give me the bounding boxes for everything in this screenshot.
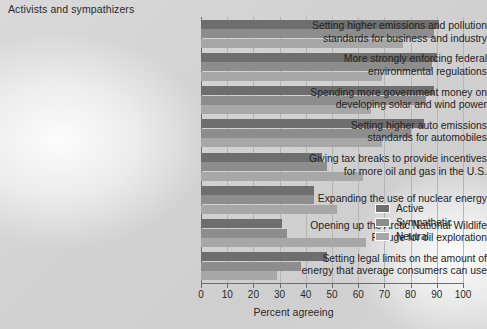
x-tick-label: 100 — [455, 289, 472, 300]
x-tick — [306, 283, 307, 288]
bar-sympathetic — [201, 262, 301, 271]
x-tick — [280, 283, 281, 288]
category-label: Giving tax breaks to provide incentivesf… — [291, 153, 487, 178]
category-label-line: Setting higher emissions and pollution — [291, 20, 487, 32]
x-tick — [463, 283, 464, 288]
bar-active — [201, 219, 282, 228]
x-tick — [227, 283, 228, 288]
legend-label: Neutral — [396, 231, 429, 242]
x-tick — [384, 283, 385, 288]
x-tick-label: 40 — [300, 289, 311, 300]
category-label: Setting higher auto emissionsstandards f… — [291, 120, 487, 145]
x-tick-label: 70 — [379, 289, 390, 300]
x-tick — [358, 283, 359, 288]
category-label-line: standards for automobiles — [291, 132, 487, 144]
x-tick-label: 50 — [326, 289, 337, 300]
x-tick — [332, 283, 333, 288]
bar-sympathetic — [201, 229, 287, 238]
x-axis-label: Percent agreeing — [154, 306, 334, 318]
x-tick-label: 60 — [353, 289, 364, 300]
legend-item[interactable]: Sympathetic — [375, 216, 452, 229]
legend-swatch-icon — [375, 232, 390, 241]
category-label: More strongly enforcing federalenvironme… — [291, 53, 487, 78]
category-label-line: energy that average consumers can use — [291, 265, 487, 277]
category-label: Spending more government money ondevelop… — [291, 87, 487, 112]
chart-legend: ActiveSympatheticNeutral — [375, 202, 452, 244]
legend-item[interactable]: Neutral — [375, 230, 452, 243]
bar-neutral — [201, 271, 277, 280]
x-tick-label: 20 — [248, 289, 259, 300]
x-tick-label: 80 — [405, 289, 416, 300]
legend-label: Sympathetic — [396, 217, 452, 228]
category-label: Setting higher emissions and pollutionst… — [291, 20, 487, 45]
category-label-line: for more oil and gas in the U.S. — [291, 166, 487, 178]
category-label-line: Setting higher auto emissions — [291, 120, 487, 132]
category-label: Setting legal limits on the amount ofene… — [291, 253, 487, 278]
x-tick — [411, 283, 412, 288]
x-tick-label: 30 — [274, 289, 285, 300]
category-label-line: developing solar and wind power — [291, 99, 487, 111]
chart-container: Activists and sympathizers 0102030405060… — [0, 0, 487, 329]
category-label-line: Giving tax breaks to provide incentives — [291, 153, 487, 165]
legend-label: Active — [396, 203, 424, 214]
category-label-line: Spending more government money on — [291, 87, 487, 99]
legend-swatch-icon — [375, 204, 390, 213]
category-label-line: environmental regulations — [291, 66, 487, 78]
x-tick — [437, 283, 438, 288]
bar-neutral — [201, 205, 337, 214]
category-label-line: More strongly enforcing federal — [291, 53, 487, 65]
chart-title: Activists and sympathizers — [8, 3, 134, 15]
x-tick — [253, 283, 254, 288]
legend-item[interactable]: Active — [375, 202, 452, 215]
legend-swatch-icon — [375, 218, 390, 227]
x-tick-label: 0 — [198, 289, 204, 300]
category-label-line: Setting legal limits on the amount of — [291, 253, 487, 265]
x-tick — [201, 283, 202, 288]
category-label-line: standards for business and industry — [291, 33, 487, 45]
x-tick-label: 90 — [431, 289, 442, 300]
x-tick-label: 10 — [222, 289, 233, 300]
x-axis-label-row: Percent agreeing — [0, 306, 487, 318]
